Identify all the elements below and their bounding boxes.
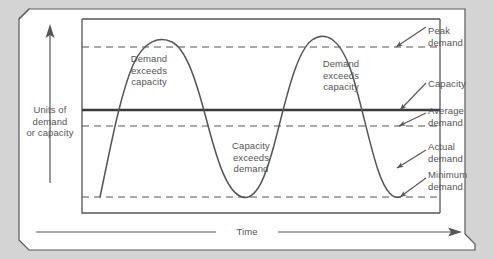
annotation-line-3: capacity xyxy=(308,81,374,93)
callout-capacity: Capacity xyxy=(428,78,490,90)
callout-line-2: demand xyxy=(428,153,490,165)
callout-peak-demand: Peak demand xyxy=(428,25,490,48)
callout-line-2: demand xyxy=(428,181,490,193)
y-axis-label-line-1: Units of xyxy=(14,104,86,116)
annotation-demand-exceeds-capacity-right: Demand exceeds capacity xyxy=(308,58,374,93)
annotation-line-1: Demand xyxy=(308,58,374,70)
callout-line-1: Average xyxy=(428,105,490,117)
figure-root: Units of demand or capacity Demand excee… xyxy=(0,0,494,259)
annotation-line-2: exceeds xyxy=(308,70,374,82)
figure-frame xyxy=(19,9,475,250)
callout-line-1: Actual xyxy=(428,141,490,153)
x-axis-label: Time xyxy=(222,226,272,238)
annotation-capacity-exceeds-demand: Capacity exceeds demand xyxy=(218,140,284,175)
callout-line-2: demand xyxy=(428,37,490,49)
annotation-demand-exceeds-capacity-left: Demand exceeds capacity xyxy=(116,53,182,88)
callout-line-1: Capacity xyxy=(428,78,490,90)
callout-line-1: Minimum xyxy=(428,169,490,181)
y-axis-label-line-2: demand xyxy=(14,116,86,128)
callout-actual-demand: Actual demand xyxy=(428,141,490,164)
y-axis-label-line-3: or capacity xyxy=(14,127,86,139)
annotation-line-1: Demand xyxy=(116,53,182,65)
callout-average-demand: Average demand xyxy=(428,105,490,128)
annotation-line-2: exceeds xyxy=(218,152,284,164)
callout-line-1: Peak xyxy=(428,25,490,37)
annotation-line-2: exceeds xyxy=(116,65,182,77)
y-axis-label: Units of demand or capacity xyxy=(14,104,86,139)
annotation-line-1: Capacity xyxy=(218,140,284,152)
callout-minimum-demand: Minimum demand xyxy=(428,169,490,192)
annotation-line-3: demand xyxy=(218,163,284,175)
annotation-line-3: capacity xyxy=(116,76,182,88)
callout-line-2: demand xyxy=(428,117,490,129)
